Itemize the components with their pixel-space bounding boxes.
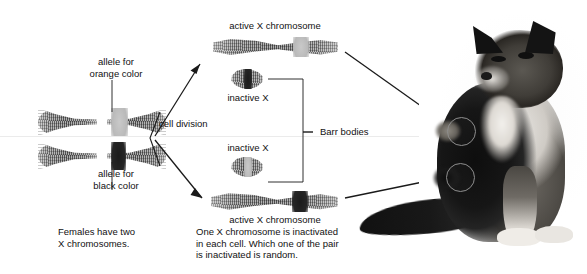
cat-chest-blaze <box>479 96 525 166</box>
arrowhead-up <box>191 64 201 74</box>
cat-paw-side <box>535 226 573 243</box>
cat-eye-right <box>518 52 534 59</box>
cat-nose <box>481 72 492 80</box>
arrowhead-down <box>191 188 203 198</box>
tortoiseshell-cat-photo <box>419 4 587 266</box>
patch-circle-lower <box>446 163 475 192</box>
barr-bodies-bracket <box>268 79 313 182</box>
arrow-cell-division-up <box>155 64 200 136</box>
cat-muzzle <box>475 66 509 92</box>
patch-circle-upper <box>447 117 476 146</box>
cell-division-vertex <box>150 112 160 166</box>
cat-eye-left <box>491 56 506 62</box>
